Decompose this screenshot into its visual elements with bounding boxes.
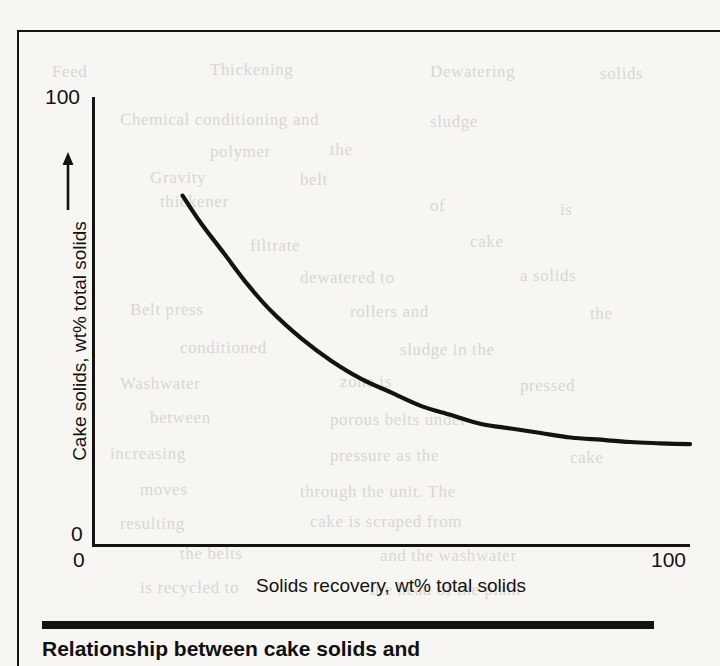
chart-plot-area: 100 0 0 100 Solids recovery, wt% total s… <box>0 0 720 666</box>
y-axis-tick-bottom: 0 <box>71 522 83 546</box>
y-axis-tick-top: 100 <box>45 85 80 109</box>
caption-rule <box>42 621 654 629</box>
figure-page: FeedThickeningDewateringsolidsChemical c… <box>0 0 720 666</box>
x-axis-title: Solids recovery, wt% total solids <box>92 575 690 597</box>
data-curve <box>0 0 720 666</box>
x-axis-tick-left: 0 <box>73 548 85 572</box>
y-axis-title: Cake solids, wt% total solids <box>69 201 91 481</box>
figure-caption: Relationship between cake solids and <box>42 637 420 661</box>
x-axis-tick-right: 100 <box>651 548 686 572</box>
